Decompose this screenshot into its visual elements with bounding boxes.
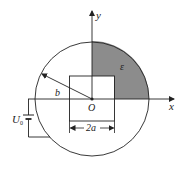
radius-arrow xyxy=(42,74,92,99)
x-axis-label: x xyxy=(168,100,174,112)
battery-circuit xyxy=(23,99,50,137)
radius-label: b xyxy=(55,87,60,98)
square-width-label: 2a xyxy=(86,122,96,133)
dielectric-label: ε xyxy=(120,61,124,72)
voltage-label: U0 xyxy=(12,113,23,126)
origin-label: O xyxy=(88,102,95,113)
y-axis-label: y xyxy=(95,9,101,21)
diagram: y x O b ε U0 2a xyxy=(0,0,184,172)
